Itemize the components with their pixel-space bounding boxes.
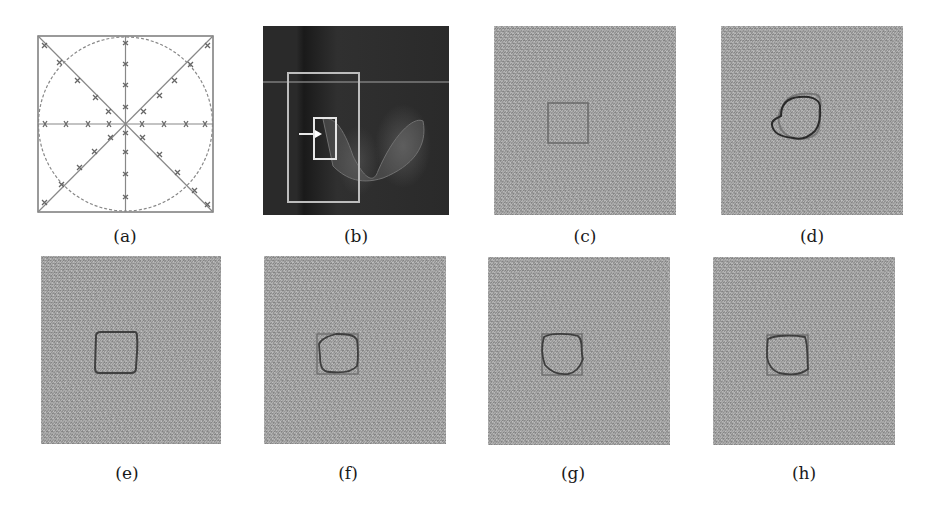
panel-c-noisy-image [494,26,676,215]
initial-contour [494,26,676,215]
caption-b: (b) [326,226,386,246]
result-contours [713,257,895,445]
result-contours [264,256,446,444]
bleed-text [470,8,475,26]
arrow-head-icon [315,130,322,138]
panel-e-noisy-image [41,256,221,444]
panel-h-noisy-image [713,257,895,445]
radial-sampling-diagram [37,35,214,213]
caption-f: (f) [318,463,378,483]
annotations-overlay [263,26,449,215]
panel-g-noisy-image [488,257,670,445]
result-contour [41,256,221,444]
caption-d: (d) [782,226,842,246]
caption-a: (a) [95,226,155,246]
panel-f-noisy-image [264,256,446,444]
outer-bounding-box [288,73,359,202]
caption-c: (c) [555,226,615,246]
caption-h: (h) [774,463,834,483]
caption-g: (g) [543,463,603,483]
panel-a-diagram [37,35,214,213]
caption-e: (e) [97,463,157,483]
panel-b-medical-image [263,26,449,215]
segmentation-contours [721,26,903,215]
panel-d-noisy-image [721,26,903,215]
result-contours [488,257,670,445]
